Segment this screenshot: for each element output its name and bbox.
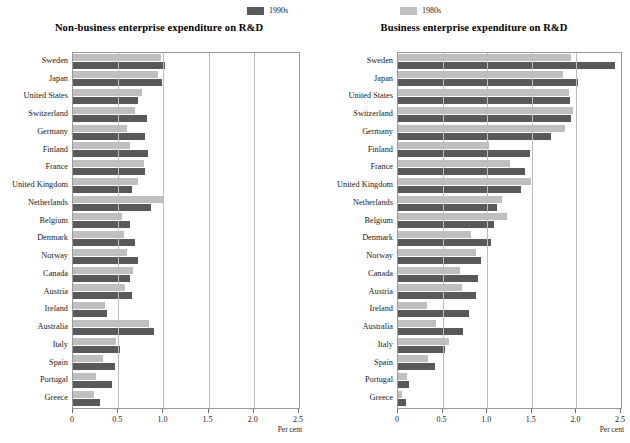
bar-group xyxy=(398,71,621,89)
category-label-portugal: Portugal xyxy=(365,375,393,384)
chart-title-business: Business enterprise expenditure on R&D xyxy=(318,22,630,33)
category-label-germany: Germany xyxy=(37,127,68,136)
category-label-canada: Canada xyxy=(368,269,393,278)
bar-netherlands-1990s xyxy=(398,204,497,211)
bar-denmark-1980s xyxy=(73,231,124,238)
category-labels-non-business: SwedenJapanUnited StatesSwitzerlandGerma… xyxy=(0,52,68,409)
bar-group xyxy=(73,125,299,143)
bar-group xyxy=(398,142,621,160)
bar-austria-1990s xyxy=(73,292,132,299)
category-label-greece: Greece xyxy=(45,393,69,402)
bar-united-states-1990s xyxy=(73,97,138,104)
bar-united-kingdom-1980s xyxy=(73,178,138,185)
bar-group xyxy=(73,267,299,285)
category-label-united-kingdom: United Kingdom xyxy=(337,180,393,189)
bar-france-1980s xyxy=(73,160,144,167)
bar-group xyxy=(73,391,299,409)
bar-norway-1990s xyxy=(398,257,481,264)
bar-greece-1990s xyxy=(73,399,100,406)
category-label-spain: Spain xyxy=(374,358,393,367)
bar-denmark-1980s xyxy=(398,231,471,238)
bar-group xyxy=(73,160,299,178)
category-label-netherlands: Netherlands xyxy=(28,198,68,207)
bar-group xyxy=(398,391,621,409)
bar-group xyxy=(73,355,299,373)
x-tick-label-2.5: 2.5 xyxy=(293,415,303,424)
category-label-italy: Italy xyxy=(378,340,393,349)
category-label-norway: Norway xyxy=(366,251,393,260)
bar-belgium-1980s xyxy=(73,213,122,220)
bar-canada-1990s xyxy=(398,275,478,282)
gridline-1.5 xyxy=(209,53,210,408)
bar-sweden-1980s xyxy=(73,54,161,61)
bar-group xyxy=(398,284,621,302)
category-label-canada: Canada xyxy=(43,269,68,278)
bar-group xyxy=(398,267,621,285)
bar-spain-1990s xyxy=(398,363,435,370)
category-label-ireland: Ireland xyxy=(45,304,69,313)
x-axis-unit-non-business: Per cent xyxy=(278,425,302,434)
bar-sweden-1980s xyxy=(398,54,571,61)
gridline-0.5 xyxy=(118,53,119,408)
category-label-greece: Greece xyxy=(370,393,394,402)
bar-switzerland-1980s xyxy=(73,107,135,114)
x-tick-label-2.0: 2.0 xyxy=(570,415,580,424)
gridline-2.0 xyxy=(576,53,577,408)
x-tick-0 xyxy=(397,409,398,413)
bar-group xyxy=(73,213,299,231)
bar-group xyxy=(73,71,299,89)
bar-ireland-1990s xyxy=(73,310,107,317)
bar-group xyxy=(73,373,299,391)
category-label-austria: Austria xyxy=(369,287,393,296)
x-tick-0.5 xyxy=(442,409,443,413)
plot-area-business xyxy=(397,52,622,409)
x-tick-2.0 xyxy=(575,409,576,413)
chart-title-non-business: Non-business enterprise expenditure on R… xyxy=(0,22,318,33)
x-tick-label-1.0: 1.0 xyxy=(157,415,167,424)
bar-austria-1980s xyxy=(73,284,125,291)
bar-portugal-1990s xyxy=(398,381,409,388)
gridline-1.0 xyxy=(487,53,488,408)
bar-ireland-1980s xyxy=(73,302,105,309)
bar-canada-1980s xyxy=(398,267,460,274)
bar-united-states-1980s xyxy=(398,89,569,96)
x-axis-non-business: Per cent 00.51.01.52.02.5 xyxy=(72,409,300,429)
bar-united-states-1990s xyxy=(398,97,570,104)
category-label-denmark: Denmark xyxy=(362,233,393,242)
x-axis-unit-business: Per cent xyxy=(600,425,624,434)
bar-switzerland-1990s xyxy=(398,115,571,122)
bar-group xyxy=(73,142,299,160)
bar-germany-1990s xyxy=(398,133,551,140)
bar-ireland-1990s xyxy=(398,310,469,317)
bar-united-kingdom-1990s xyxy=(398,186,521,193)
category-label-australia: Australia xyxy=(38,322,68,331)
category-label-japan: Japan xyxy=(49,74,68,83)
legend-item-1990s: 1990s xyxy=(247,6,288,15)
gridline-0.5 xyxy=(443,53,444,408)
x-tick-1.5 xyxy=(531,409,532,413)
bar-greece-1980s xyxy=(73,391,94,398)
x-tick-label-1.5: 1.5 xyxy=(203,415,213,424)
bar-norway-1980s xyxy=(398,249,476,256)
bar-denmark-1990s xyxy=(398,239,491,246)
category-label-germany: Germany xyxy=(362,127,393,136)
x-tick-label-2.0: 2.0 xyxy=(248,415,258,424)
bar-group xyxy=(73,284,299,302)
category-label-france: France xyxy=(370,162,393,171)
category-label-austria: Austria xyxy=(44,287,68,296)
plot-area-non-business xyxy=(72,52,300,409)
chart-panel-non-business: Non-business enterprise expenditure on R… xyxy=(0,22,318,443)
x-axis-business: Per cent 00.51.01.52.02.5 xyxy=(397,409,622,429)
x-tick-1.5 xyxy=(208,409,209,413)
category-label-united-kingdom: United Kingdom xyxy=(12,180,68,189)
bar-group xyxy=(398,249,621,267)
bar-japan-1980s xyxy=(73,71,158,78)
bar-belgium-1980s xyxy=(398,213,507,220)
bar-portugal-1990s xyxy=(73,381,112,388)
category-label-netherlands: Netherlands xyxy=(353,198,393,207)
x-tick-2.5 xyxy=(298,409,299,413)
category-labels-business: SwedenJapanUnited StatesSwitzerlandGerma… xyxy=(318,52,393,409)
bar-ireland-1980s xyxy=(398,302,427,309)
bar-group xyxy=(398,231,621,249)
bar-australia-1990s xyxy=(73,328,154,335)
